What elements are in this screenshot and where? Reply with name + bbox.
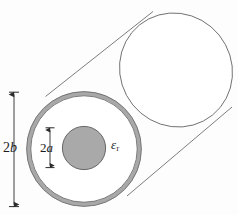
permittivity-subscript: r bbox=[116, 144, 119, 153]
permittivity-label: εr bbox=[111, 138, 119, 153]
cylinder-diagram bbox=[0, 0, 238, 215]
outer-diameter-number: 2 bbox=[3, 140, 10, 155]
inner-conductor-disc bbox=[62, 126, 105, 169]
inner-diameter-label: 2a bbox=[40, 141, 53, 154]
inner-diameter-symbol: a bbox=[47, 140, 54, 155]
figure-container: 2b 2a εr bbox=[0, 0, 238, 215]
outer-diameter-label: 2b bbox=[3, 141, 17, 155]
outer-diameter-symbol: b bbox=[10, 140, 17, 155]
